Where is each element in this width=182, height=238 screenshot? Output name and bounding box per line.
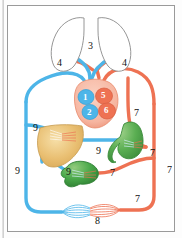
label-7-intestinal: 7 <box>110 168 115 178</box>
pulmonary-vein-trunk <box>97 70 99 78</box>
label-5: 5 <box>101 91 106 100</box>
diagram-stage: 3 4 4 1 5 2 6 7 7 7 7 7 8 9 9 9 9 <box>0 0 182 238</box>
stomach <box>108 122 143 163</box>
diagram-svg <box>0 0 182 238</box>
label-4-left: 4 <box>57 58 62 68</box>
label-7-aorta: 7 <box>134 108 139 118</box>
label-9-portal: 9 <box>66 167 71 177</box>
label-1: 1 <box>83 93 88 102</box>
label-7-lower: 7 <box>135 194 140 204</box>
label-9-gastric: 9 <box>96 146 101 156</box>
body-capillary-bed <box>62 204 120 217</box>
capillary-bed-blue-fan <box>62 205 90 218</box>
label-7-gastric: 7 <box>150 148 155 158</box>
label-4-right: 4 <box>122 58 127 68</box>
liver <box>37 125 83 167</box>
heart <box>74 79 118 128</box>
label-8: 8 <box>95 216 100 226</box>
heart-tissue <box>74 79 118 128</box>
liver-body <box>37 125 83 167</box>
label-3: 3 <box>88 41 93 51</box>
label-9-hepatic: 9 <box>33 123 38 133</box>
label-2: 2 <box>87 108 92 117</box>
label-9-venacava: 9 <box>15 166 20 176</box>
intestinal-artery <box>99 158 154 173</box>
circulatory-system-figure: 3 4 4 1 5 2 6 7 7 7 7 7 8 9 9 9 9 <box>0 0 182 238</box>
label-6: 6 <box>104 106 109 115</box>
label-7-trunk: 7 <box>167 165 172 175</box>
